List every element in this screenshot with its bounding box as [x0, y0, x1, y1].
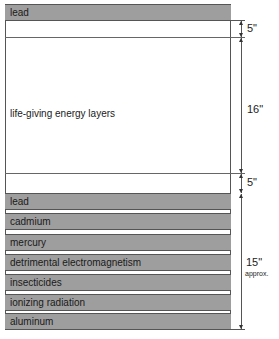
layer-label: lead	[10, 196, 29, 207]
extension-line	[231, 329, 245, 330]
arrow-up-icon	[239, 38, 243, 42]
arrow-up-icon	[239, 194, 243, 198]
dimension-note: approx.	[245, 270, 268, 277]
layer-mercury: mercury	[5, 234, 231, 251]
layer-label: insecticides	[10, 277, 62, 288]
divider-line	[5, 173, 245, 174]
layer-aluminum: aluminum	[5, 313, 231, 330]
layer-electromagnetism: detrimental electromagnetism	[5, 254, 231, 271]
layer-label: lead	[10, 7, 29, 18]
arrow-down-icon	[239, 169, 243, 173]
layer-label: mercury	[10, 237, 46, 248]
layer-cadmium: cadmium	[5, 213, 231, 230]
dimension-label: 5"	[247, 176, 257, 188]
dimension-label: 16"	[247, 103, 263, 115]
arrow-up-icon	[239, 21, 243, 25]
dimension-line	[241, 194, 242, 329]
layer-label: cadmium	[10, 216, 51, 227]
divider-line	[5, 37, 245, 38]
layer-ionizing-radiation: ionizing radiation	[5, 294, 231, 311]
energy-layers-label: life-giving energy layers	[10, 108, 115, 119]
layer-insecticides: insecticides	[5, 274, 231, 291]
top-lead-layer: lead	[5, 4, 231, 21]
arrow-down-icon	[239, 325, 243, 329]
layer-lead: lead	[5, 193, 231, 210]
dimension-label: 15"	[246, 256, 262, 268]
layer-label: detrimental electromagnetism	[10, 257, 141, 268]
arrow-down-icon	[239, 33, 243, 37]
layer-label: aluminum	[10, 316, 53, 327]
arrow-up-icon	[239, 174, 243, 178]
arrow-down-icon	[239, 189, 243, 193]
layer-label: ionizing radiation	[10, 297, 85, 308]
dimension-label: 5"	[247, 22, 257, 34]
dimension-line	[241, 38, 242, 173]
